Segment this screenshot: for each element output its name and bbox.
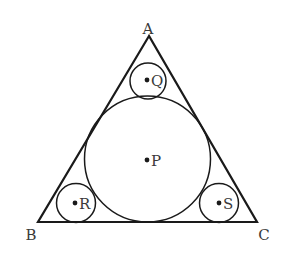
center-label-r: R (79, 195, 91, 213)
center-label-s: S (223, 195, 233, 213)
center-label-q: Q (151, 72, 163, 90)
center-dot-s (217, 201, 222, 206)
vertex-label-b: B (25, 226, 36, 244)
center-dot-q (145, 78, 150, 83)
center-dot-p (145, 158, 150, 163)
vertex-label-c: C (258, 226, 269, 244)
triangle-with-inscribed-circles: A B C P Q R S (0, 0, 290, 254)
center-dot-r (73, 201, 78, 206)
center-label-p: P (151, 152, 161, 170)
vertex-label-a: A (142, 20, 154, 38)
geometry-diagram: A B C P Q R S (0, 0, 290, 254)
